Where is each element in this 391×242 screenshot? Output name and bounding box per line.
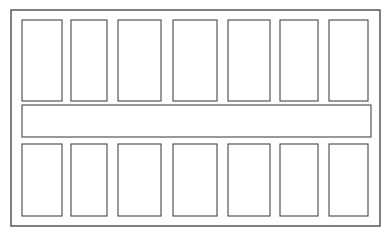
horizontal-corridor: [22, 105, 371, 137]
top-cell-5: [228, 20, 270, 101]
bottom-cell-1: [22, 144, 62, 216]
top-cell-6: [280, 20, 318, 101]
bottom-cell-7: [329, 144, 368, 216]
bottom-row-cells: [22, 144, 368, 216]
top-cell-4: [173, 20, 217, 101]
bottom-cell-4: [173, 144, 217, 216]
bottom-cell-2: [71, 144, 107, 216]
diagram-canvas: [0, 0, 391, 242]
bottom-cell-5: [228, 144, 270, 216]
top-cell-7: [329, 20, 368, 101]
horizontal-corridor: [22, 105, 371, 137]
top-cell-2: [71, 20, 107, 101]
bottom-cell-3: [118, 144, 161, 216]
floor-plan-diagram: [0, 0, 391, 242]
bottom-cell-6: [280, 144, 318, 216]
top-row-cells: [22, 20, 368, 101]
top-cell-1: [22, 20, 62, 101]
top-cell-3: [118, 20, 161, 101]
